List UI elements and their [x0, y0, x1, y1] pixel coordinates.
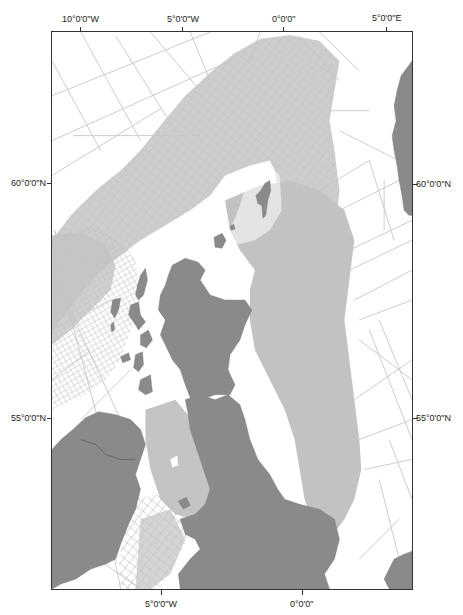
- top-tick-label-10w: 10°0'0"W: [62, 14, 99, 24]
- left-tick-label-60n: 60°0'0"N: [11, 178, 46, 188]
- bottom-tick-label-5w: 5°0'0"W: [145, 599, 177, 609]
- map-frame: [51, 31, 413, 590]
- top-tick-label-0: 0°0'0": [272, 14, 296, 24]
- bottom-tick-label-0: 0°0'0": [290, 599, 314, 609]
- tick-bottom-0: [302, 590, 303, 595]
- orkney: [214, 233, 226, 248]
- tick-right-60n: [413, 184, 418, 185]
- top-tick-label-5e: 5°0'0"E: [372, 13, 402, 23]
- left-tick-label-55n: 55°0'0"N: [11, 413, 46, 423]
- norway: [392, 61, 412, 215]
- top-tick-label-5w: 5°0'0"W: [167, 14, 199, 24]
- map-canvas: [52, 32, 412, 589]
- right-tick-label-60n: 60°0'0"N: [416, 179, 451, 189]
- scotland: [158, 258, 251, 399]
- right-tick-label-55n: 55°0'0"N: [416, 413, 451, 423]
- tick-right-55n: [413, 418, 418, 419]
- tick-bottom-5w: [161, 590, 162, 595]
